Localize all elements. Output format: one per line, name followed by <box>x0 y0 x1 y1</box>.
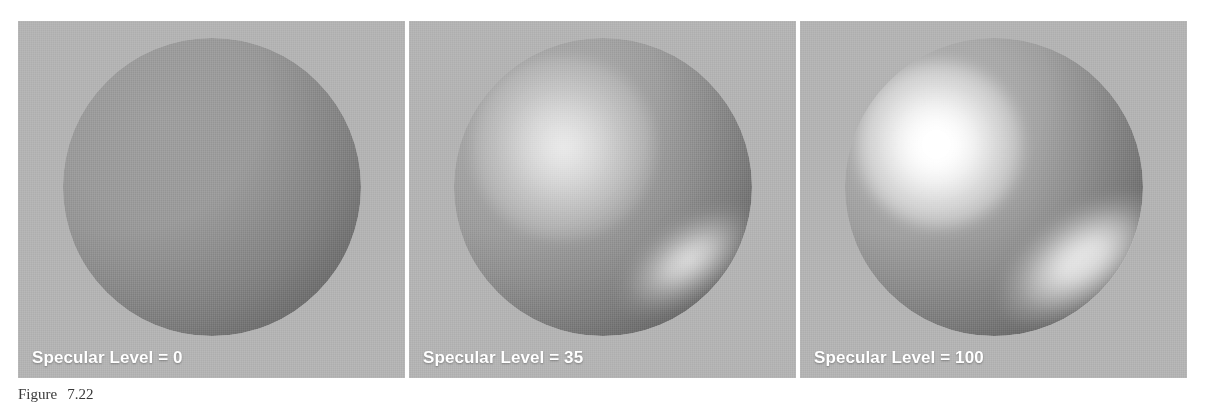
panel-label-specular-100: Specular Level = 100 <box>814 348 984 368</box>
sphere-render <box>454 38 752 336</box>
sphere-render <box>845 38 1143 336</box>
panel-specular-0: Specular Level = 0 <box>18 21 405 378</box>
sphere-terminator-shadow <box>845 38 1143 336</box>
figure-block: Specular Level = 0 Specular Level = 35 S… <box>0 0 1205 405</box>
sphere-terminator-shadow <box>454 38 752 336</box>
figure-caption: Figure7.22 <box>18 386 103 405</box>
panel-specular-100: Specular Level = 100 <box>800 21 1187 378</box>
panel-strip: Specular Level = 0 Specular Level = 35 S… <box>18 21 1187 378</box>
sphere-terminator-shadow <box>63 38 361 336</box>
panel-label-specular-35: Specular Level = 35 <box>423 348 583 368</box>
panel-label-specular-0: Specular Level = 0 <box>32 348 183 368</box>
sphere-render <box>63 38 361 336</box>
figure-caption-label: Figure <box>18 386 57 402</box>
panel-specular-35: Specular Level = 35 <box>409 21 796 378</box>
figure-caption-number: 7.22 <box>67 386 93 402</box>
